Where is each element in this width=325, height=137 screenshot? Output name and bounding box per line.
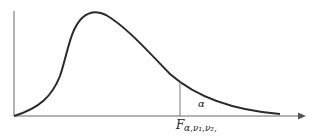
f-distribution-chart: α F α,ν₁,ν₂, <box>0 0 325 137</box>
density-curve <box>14 12 280 116</box>
x-axis-arrow-icon <box>298 113 306 120</box>
tail-area-label: α <box>198 98 205 109</box>
critical-value-subscript: α,ν₁,ν₂, <box>184 123 217 133</box>
